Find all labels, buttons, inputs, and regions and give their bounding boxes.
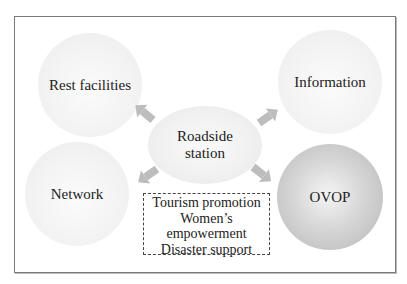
function-empowerment: empowerment: [144, 226, 269, 242]
function-tourism-promotion: Tourism promotion: [144, 195, 269, 211]
arrow-to-information-icon: [254, 103, 282, 129]
node-roadside-station: Roadside station: [148, 106, 262, 184]
center-label-line1: Roadside: [177, 128, 233, 145]
function-womens: Women’s: [144, 211, 269, 227]
center-label-line2: station: [185, 145, 225, 162]
function-disaster-support: Disaster support: [144, 242, 269, 258]
arrow-to-rest-facilities-icon: [130, 99, 158, 126]
functions-box: Tourism promotion Women’s empowerment Di…: [143, 193, 270, 255]
